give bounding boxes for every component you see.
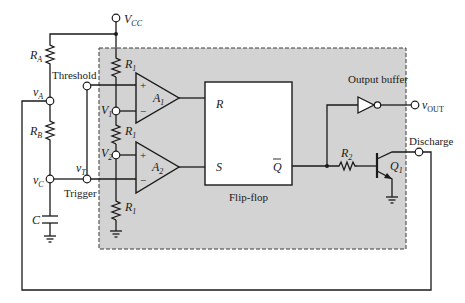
flipflop-r-input: R — [215, 97, 224, 111]
label-vc: vC — [33, 173, 44, 189]
pin-output — [411, 101, 419, 109]
resistor-rb — [46, 118, 54, 142]
junction-dot-vcc — [114, 32, 118, 36]
ground-icon — [44, 236, 56, 242]
resistor-ra — [46, 42, 54, 66]
label-vcc: VCC — [124, 12, 143, 28]
flipflop-qbar-output: Q — [273, 159, 282, 174]
label-c: C — [32, 213, 41, 227]
junction-dot-qbar — [325, 164, 329, 168]
a1-minus-sign: − — [140, 105, 146, 117]
circuit-diagram: VCC RA RB C vA vC vT Threshold Trigger D… — [0, 0, 465, 303]
pin-threshold — [83, 82, 91, 90]
svg-text:Q: Q — [273, 160, 282, 174]
label-rb: RB — [29, 124, 42, 140]
flipflop-caption: Flip-flop — [229, 191, 269, 203]
node-v1 — [112, 107, 120, 115]
pin-discharge — [415, 148, 423, 156]
flipflop-s-input: S — [216, 160, 222, 174]
a1-plus-sign: + — [140, 79, 146, 91]
label-va: vA — [33, 85, 43, 101]
terminal-vcc — [112, 14, 120, 22]
label-vout: vOUT — [422, 98, 444, 114]
node-vc — [46, 175, 54, 183]
label-threshold: Threshold — [52, 69, 97, 81]
label-discharge: Discharge — [409, 135, 454, 147]
label-vt: vT — [76, 161, 86, 177]
label-trigger: Trigger — [64, 187, 97, 199]
a2-minus-sign: − — [140, 174, 146, 186]
a2-plus-sign: + — [140, 149, 146, 161]
node-v2 — [112, 151, 120, 159]
node-va — [46, 97, 54, 105]
capacitor-c — [42, 216, 58, 223]
output-buffer-caption: Output buffer — [348, 73, 408, 85]
label-ra: RA — [29, 48, 42, 64]
